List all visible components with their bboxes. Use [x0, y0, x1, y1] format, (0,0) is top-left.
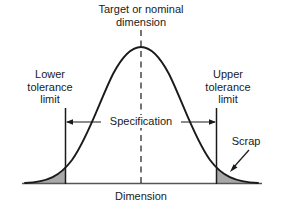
specification-arrowhead-right: [209, 119, 216, 125]
scrap-arrow-line: [233, 150, 249, 168]
specification-label: Specification: [101, 115, 181, 128]
scrap-callout-arrow: [230, 150, 249, 172]
dimension-axis-label: Dimension: [101, 190, 181, 203]
upper-tolerance-limit-label: Upper tolerance limit: [190, 68, 266, 106]
normal-distribution-tolerance-figure: Target or nominal dimension Lower tolera…: [0, 0, 282, 209]
target-or-nominal-dimension-label: Target or nominal dimension: [71, 3, 211, 28]
scrap-label: Scrap: [222, 135, 270, 148]
scrap-arrowhead: [230, 164, 237, 172]
lower-tolerance-limit-label: Lower tolerance limit: [14, 68, 86, 106]
specification-arrowhead-left: [66, 119, 73, 125]
